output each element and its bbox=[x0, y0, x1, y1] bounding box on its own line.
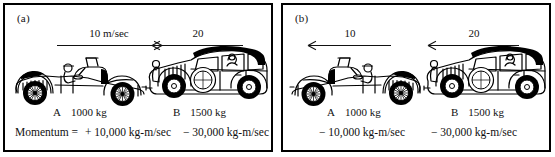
wheel bbox=[237, 75, 261, 99]
panel-a-car-b-sedan-icon bbox=[145, 38, 271, 107]
panel-a-momentum-car-a: + 10,000 kg-m/sec bbox=[85, 126, 171, 138]
panel-a-momentum-prefix: Momentum = bbox=[15, 126, 78, 138]
panel-b-momentum-line: − 10,000 kg-m/sec − 30,000 kg-m/sec bbox=[283, 126, 549, 142]
momentum-figure: (a) 10 m/sec 20 bbox=[0, 0, 555, 157]
panel-a-car-a-mass-caption: A1000 kg bbox=[53, 106, 107, 118]
wheel bbox=[389, 81, 413, 105]
spare-wheel bbox=[469, 68, 494, 93]
panel-b-car-b-sedan-icon bbox=[423, 38, 549, 107]
wheel bbox=[440, 74, 464, 98]
panel-b-label: (b) bbox=[295, 12, 308, 24]
panel-b-velocity-arrow-car-a: 10 bbox=[309, 27, 391, 53]
panel-b-car-a-mass: 1000 kg bbox=[345, 106, 381, 118]
panel-b: (b) 10 20 bbox=[281, 3, 551, 152]
panel-b-momentum-car-a: − 10,000 kg-m/sec bbox=[319, 126, 405, 138]
panel-b-car-a-roadster-icon bbox=[289, 55, 423, 107]
wheel bbox=[111, 82, 135, 106]
panel-a-car-a-roadster-icon bbox=[13, 55, 147, 107]
spare-wheel bbox=[191, 68, 216, 93]
panel-a-car-a-mass: 1000 kg bbox=[71, 106, 107, 118]
wheel bbox=[515, 75, 539, 99]
panel-b-car-b-mass: 1500 kg bbox=[468, 106, 504, 118]
panel-a-car-b-mass-caption: B1500 kg bbox=[173, 106, 226, 118]
wheel bbox=[302, 82, 326, 106]
panel-b-car-b-name: B bbox=[451, 106, 458, 118]
panel-b-car-a-name: A bbox=[327, 106, 335, 118]
panel-a-car-b-mass: 1500 kg bbox=[190, 106, 226, 118]
panel-b-car-a-mass-caption: A1000 kg bbox=[327, 106, 381, 118]
panel-a: (a) 10 m/sec 20 bbox=[3, 3, 273, 152]
panel-a-momentum-car-b: − 30,000 kg-m/sec bbox=[183, 126, 269, 138]
panel-a-car-a-name: A bbox=[53, 106, 61, 118]
panel-a-momentum-line: Momentum = + 10,000 kg-m/sec − 30,000 kg… bbox=[5, 126, 271, 142]
panel-a-car-b-name: B bbox=[173, 106, 180, 118]
wheel bbox=[23, 81, 47, 105]
arrow-head-left-icon bbox=[308, 39, 317, 51]
arrow-shaft-icon bbox=[309, 45, 391, 46]
panel-b-car-b-mass-caption: B1500 kg bbox=[451, 106, 504, 118]
panel-a-label: (a) bbox=[17, 12, 30, 24]
wheel bbox=[162, 74, 186, 98]
panel-b-velocity-label-car-a: 10 bbox=[309, 27, 391, 39]
panel-b-momentum-car-b: − 30,000 kg-m/sec bbox=[431, 126, 517, 138]
